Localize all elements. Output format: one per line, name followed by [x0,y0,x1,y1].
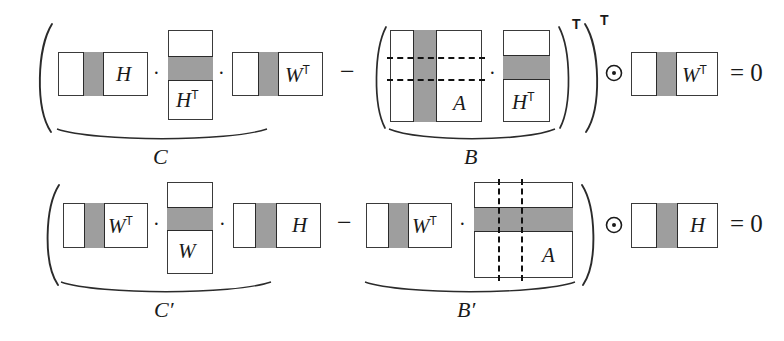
matrix-label-HT: HT [176,89,199,111]
matrix-label-WT: WT [108,215,133,237]
shade-band-vertical [255,203,277,249]
shade-band-vertical [388,203,409,249]
shade-band-horizontal [168,56,214,81]
transpose-superscript-inner: T [572,16,581,32]
matrix-WT-row1-a: WT [232,52,323,96]
equals-zero-row2: = 0 [730,211,763,236]
equals-zero-row1: = 0 [730,60,763,85]
shade-band-vertical [413,30,437,123]
matrix-HT-row1-a: HT [168,30,213,120]
matrix-label-A: A [453,93,466,114]
diagram-canvas: H · HT · WT − A · HT [0,0,784,341]
matrix-label-H: H [690,215,705,236]
brace-label-C-prime: C′ [154,299,174,321]
matrix-A-row2: A [474,182,573,278]
dot-operator: · [489,63,496,83]
shade-band-vertical [258,52,279,97]
matrix-label-A: A [542,245,555,266]
matrix-label-WT: WT [285,64,310,86]
dashed-line-horizontal [387,79,485,81]
dashed-line-vertical [521,179,523,281]
matrix-WT-row2-a: WT [63,203,148,248]
matrix-label-WT: WT [412,215,437,237]
matrix-H-row2-b: H [631,203,718,248]
matrix-H-row2-a: H [233,203,321,248]
matrix-WT-row1-b: WT [631,52,718,96]
shade-band-horizontal [503,55,551,80]
minus-operator: − [337,210,352,236]
dot-operator: · [153,214,160,234]
shade-band-vertical [84,203,105,249]
brace-label-B-prime: B′ [457,299,475,321]
dot-operator: · [219,214,226,234]
shade-band-vertical [656,52,677,97]
matrix-label-H: H [292,215,307,236]
matrix-label-WT: WT [682,64,707,86]
minus-operator: − [340,59,355,85]
dot-operator: · [459,214,466,234]
hadamard-icon [604,63,624,83]
dot-operator: · [153,63,160,83]
row2-close-paren [578,183,604,287]
hadamard-icon [604,215,624,235]
matrix-label-HT: HT [512,91,535,113]
matrix-label-H: H [116,64,131,85]
brace-label-C: C [153,146,168,168]
shade-band-vertical [656,203,678,249]
dot-operator: · [218,63,225,83]
matrix-HT-row1-b: HT [503,30,550,122]
transpose-superscript-outer: T [600,12,609,28]
row1-inner-open-paren [369,25,389,130]
row1-inner-close-paren [556,25,576,130]
dashed-line-vertical [498,179,500,281]
matrix-WT-row2-b: WT [366,203,452,248]
matrix-W-row2: W [167,182,213,274]
brace-label-B: B [464,146,477,168]
brace-C [56,128,268,144]
row1-open-paren [30,22,56,134]
dashed-line-horizontal [387,57,485,59]
shade-band-vertical [83,52,104,97]
shade-band-horizontal [474,207,574,232]
brace-C-prime [60,281,272,297]
matrix-H-row1: H [58,52,148,96]
matrix-label-W: W [178,241,196,262]
shade-band-horizontal [167,207,214,231]
row2-open-paren [37,183,63,287]
matrix-A-row1: A [390,30,482,122]
brace-B [388,128,556,144]
brace-B-prime [364,281,576,297]
